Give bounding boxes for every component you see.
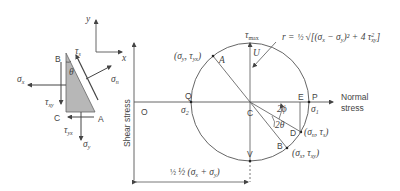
tau-s-label: τs (75, 46, 81, 57)
label-u: U (253, 48, 261, 58)
sigma-n-arrow (86, 66, 111, 79)
sigma2-label: σ2 (181, 105, 189, 116)
y-axis-label: y (85, 14, 91, 24)
stress-element: y x θ B C A τs σn σx τxy τyx σy (17, 14, 127, 150)
label-e: E (298, 92, 304, 102)
point-v-dot (249, 160, 252, 163)
mohr-circle-diagram: y x θ B C A τs σn σx τxy τyx σy (0, 0, 400, 191)
coordinate-axes: y x (85, 14, 127, 63)
sigma-n-label: σn (111, 74, 119, 85)
angle-2theta-label: 2θ (275, 120, 285, 130)
shear-stress-label: Shear stress (122, 99, 132, 147)
corner-b: B (55, 54, 61, 64)
label-a: A (218, 55, 225, 65)
normal-stress-label-line1: Normal (341, 92, 369, 102)
sigma-y-label: σy (83, 139, 91, 150)
mohr-axes: Shear stress Normal stress O (122, 43, 369, 180)
sigma-x-label: σx (17, 74, 25, 85)
point-d-coords: (σn, τs) (304, 127, 329, 138)
tau-max-label: τmax (245, 30, 259, 41)
corner-a: A (98, 114, 104, 124)
theta-label: θ (69, 67, 74, 77)
normal-stress-label-line2: stress (341, 103, 364, 113)
mohr-circle: Q C E P U V A B D σ2 σ1 τmax (σy, τyx) (… (174, 30, 329, 182)
point-a-coords: (σy, τyx) (174, 51, 201, 62)
center-dimension: ½½ (σx + σy) (136, 167, 248, 182)
point-p-dot (308, 101, 311, 104)
sigma1-label: σ1 (311, 104, 319, 115)
center-dimension-label: ½½ (σx + σy) (170, 167, 220, 178)
tau-yx-label: τyx (64, 125, 73, 136)
label-v: V (247, 149, 253, 159)
label-p: P (312, 92, 318, 102)
corner-c: C (54, 113, 60, 123)
label-b: B (277, 141, 283, 151)
angle-2phi-label: 2ϕ (277, 104, 287, 114)
radius-formula: r =½√[(σx − σy)² + 4 τ2xy] (282, 32, 380, 43)
point-a-dot (212, 55, 215, 58)
tau-xy-label: τxy (45, 97, 54, 108)
label-c: C (247, 108, 253, 118)
label-q: Q (185, 91, 192, 101)
x-axis-label: x (121, 53, 127, 63)
point-b-coords: (σx, τxy) (292, 148, 319, 159)
point-b-dot (286, 147, 289, 150)
point-q-dot (190, 101, 193, 104)
label-d: D (290, 128, 296, 138)
origin-label: O (141, 107, 148, 117)
